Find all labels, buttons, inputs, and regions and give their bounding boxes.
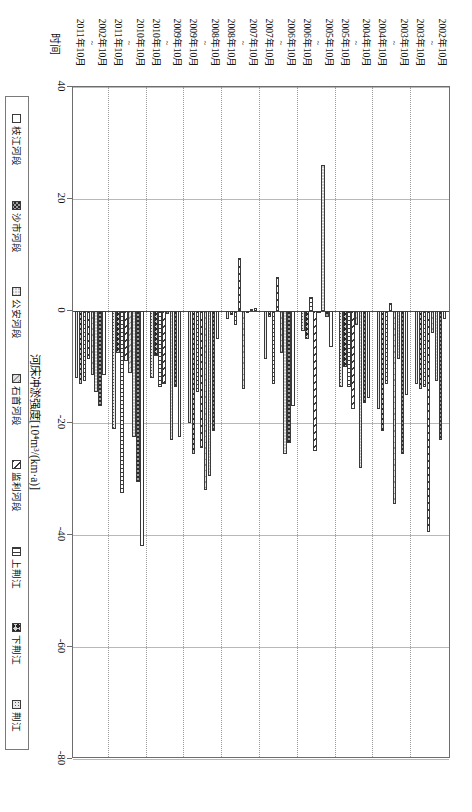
category-label-tilde: ~ (162, 2, 173, 84)
value-axis-tick-label: -80 (56, 738, 68, 778)
category-label-tilde: ~ (199, 2, 210, 84)
category-label-tilde: ~ (86, 2, 97, 84)
bar (216, 311, 219, 339)
category-axis-label: 2008年10月~2009年10月 (188, 2, 221, 84)
legend-item[interactable]: 沙市河段 (10, 201, 24, 253)
legend-swatch-icon (13, 460, 22, 469)
bar (98, 311, 101, 406)
category-label-line: 2011年10月 (75, 2, 86, 84)
bar (212, 311, 215, 431)
legend-item[interactable]: 石首河段 (10, 374, 24, 426)
bar-group (109, 87, 147, 757)
bar (162, 311, 165, 384)
bar (284, 311, 287, 454)
category-label-tilde: ~ (351, 2, 362, 84)
category-axis-label: 2006年10月~2007年10月 (264, 2, 297, 84)
category-axis-label: 2007年10月~2008年10月 (226, 2, 259, 84)
bar (75, 311, 78, 378)
category-axis-label: 2010年10月~2011年10月 (112, 2, 145, 84)
legend-item[interactable]: 枝江河段 (10, 114, 24, 166)
bar-group (184, 87, 222, 757)
legend-item-label: 石首河段 (10, 386, 24, 426)
bar (178, 311, 181, 437)
value-axis-tick-label: -60 (56, 626, 68, 666)
category-axis-label: 2002年10月~2011年10月 (75, 2, 108, 84)
bar (419, 311, 422, 389)
legend-item-label: 上荆江 (10, 559, 24, 589)
bar (439, 311, 442, 440)
chart-figure: 40200-20-40-60-80 河床冲淤强度[10⁴m³/(km·a)] 2… (0, 0, 472, 812)
category-axis-label: 2009年10月~2010年10月 (150, 2, 183, 84)
legend-item-label: 荆江 (10, 712, 24, 732)
category-label-tilde: ~ (237, 2, 248, 84)
bar (79, 311, 82, 384)
bar (321, 165, 324, 311)
bar (140, 311, 143, 546)
category-label-line: 2006年10月 (301, 2, 312, 84)
legend-swatch-icon (13, 547, 22, 556)
category-label-line: 2009年10月 (188, 2, 199, 84)
category-label-line: 2005年10月 (339, 2, 350, 84)
bar (377, 311, 380, 409)
bar (423, 311, 426, 387)
legend-item-label: 监利河段 (10, 472, 24, 512)
bar (389, 303, 392, 311)
legend-item[interactable]: 公安河段 (10, 287, 24, 339)
bar (208, 311, 211, 476)
bar (393, 311, 396, 504)
bar (351, 311, 354, 409)
category-label-line: 2003年10月 (415, 2, 426, 84)
bar (112, 311, 115, 429)
bar (317, 311, 320, 313)
bar (136, 311, 139, 482)
category-label-line: 2007年10月 (264, 2, 275, 84)
bar (280, 311, 283, 353)
bar (309, 297, 312, 311)
legend-swatch-icon (13, 623, 22, 632)
bar (116, 311, 119, 353)
bar-group (260, 87, 298, 757)
category-label-tilde: ~ (426, 2, 437, 84)
category-label-tilde: ~ (275, 2, 286, 84)
bar (272, 311, 275, 384)
plot-area (72, 86, 450, 758)
bar (339, 311, 342, 387)
category-label-line: 2008年10月 (226, 2, 237, 84)
bar (405, 311, 408, 395)
bar (124, 311, 127, 361)
bar (329, 311, 332, 347)
category-label-line: 2006年10月 (286, 2, 297, 84)
bar (287, 311, 290, 443)
bar (305, 311, 308, 339)
category-label-line: 2010年10月 (150, 2, 161, 84)
bar (102, 311, 105, 375)
rotated-figure-stage: 40200-20-40-60-80 河床冲淤强度[10⁴m³/(km·a)] 2… (0, 0, 472, 812)
bar (385, 311, 388, 384)
bar (250, 309, 253, 311)
bar (347, 311, 350, 387)
legend-item[interactable]: 上荆江 (10, 547, 24, 589)
category-axis-label: 2005年10月~2006年10月 (301, 2, 334, 84)
legend-item[interactable]: 下荆江 (10, 623, 24, 665)
legend-swatch-icon (13, 201, 22, 210)
bar-group (71, 87, 109, 757)
bar (359, 311, 362, 468)
bar (166, 311, 169, 314)
category-axis-label: 2004年10月~2005年10月 (339, 2, 372, 84)
bar (381, 311, 384, 431)
bar (254, 308, 257, 311)
bar-group (411, 87, 449, 757)
legend-item[interactable]: 荆江 (10, 700, 24, 732)
bar (431, 311, 434, 333)
legend: 枝江河段沙市河段公安河段石首河段监利河段上荆江下荆江荆江 (5, 96, 29, 750)
legend-item-label: 枝江河段 (10, 126, 24, 166)
bar (132, 311, 135, 437)
legend-item[interactable]: 监利河段 (10, 460, 24, 512)
bar (95, 311, 98, 392)
legend-item-label: 下荆江 (10, 635, 24, 665)
category-axis-label: 2002年10月~2003年10月 (415, 2, 448, 84)
bar (120, 311, 123, 493)
category-label-tilde: ~ (124, 2, 135, 84)
category-label-line: 2002年10月 (97, 2, 108, 84)
bar (128, 311, 131, 373)
